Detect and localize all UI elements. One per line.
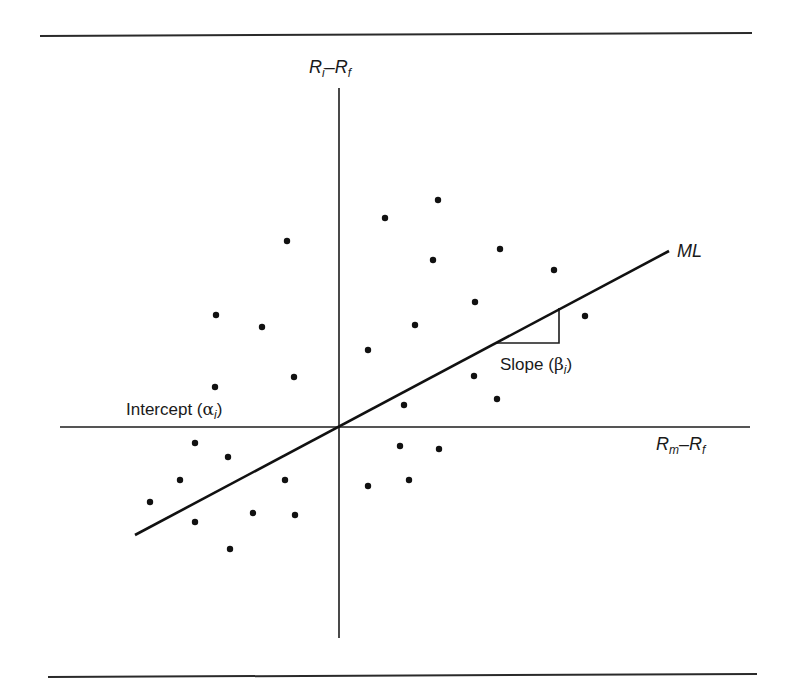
data-point: [292, 512, 298, 518]
data-point: [435, 197, 441, 203]
scatter-points: [147, 197, 588, 552]
data-point: [282, 477, 288, 483]
data-point: [365, 483, 371, 489]
data-point: [406, 477, 412, 483]
data-point: [436, 446, 442, 452]
data-point: [192, 440, 198, 446]
data-point: [382, 215, 388, 221]
data-point: [401, 402, 407, 408]
top-rule: [40, 33, 752, 36]
data-point: [494, 396, 500, 402]
slope-label: Slope (βi): [500, 356, 572, 373]
data-point: [192, 519, 198, 525]
data-point: [212, 384, 218, 390]
data-point: [471, 373, 477, 379]
y-axis-label: Ri–Rf: [309, 58, 351, 76]
bottom-rule: [48, 674, 757, 677]
intercept-label: Intercept (αi): [126, 401, 222, 418]
data-point: [284, 238, 290, 244]
data-point: [250, 510, 256, 516]
data-point: [291, 374, 297, 380]
x-axis-label: Rm–Rf: [656, 435, 705, 453]
data-point: [177, 477, 183, 483]
data-point: [551, 267, 557, 273]
data-point: [412, 322, 418, 328]
data-point: [227, 546, 233, 552]
security-characteristic-line-diagram: [0, 0, 796, 697]
market-line: [135, 251, 669, 535]
data-point: [365, 347, 371, 353]
data-point: [259, 324, 265, 330]
line-label: ML: [677, 242, 702, 260]
data-point: [397, 443, 403, 449]
data-point: [497, 246, 503, 252]
data-point: [582, 313, 588, 319]
data-point: [430, 257, 436, 263]
data-point: [225, 454, 231, 460]
data-point: [213, 312, 219, 318]
data-point: [147, 499, 153, 505]
data-point: [472, 299, 478, 305]
